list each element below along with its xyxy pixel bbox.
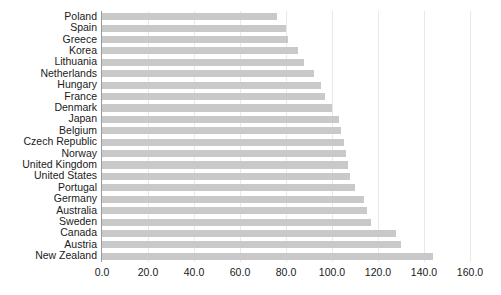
x-axis-tick-label: 0.0	[95, 266, 110, 278]
bar-row	[102, 36, 470, 43]
bar	[102, 196, 364, 203]
bar	[102, 13, 277, 20]
bar	[102, 127, 341, 134]
y-axis-label: Norway	[0, 148, 97, 159]
bar-row	[102, 184, 470, 191]
bar	[102, 36, 288, 43]
bar-row	[102, 127, 470, 134]
bar	[102, 25, 286, 32]
bar-row	[102, 230, 470, 237]
y-axis-label: Austria	[0, 239, 97, 250]
y-axis-label: Japan	[0, 113, 97, 124]
bar-row	[102, 150, 470, 157]
y-axis-label: New Zealand	[0, 250, 97, 261]
x-axis-tick-label: 20.0	[138, 266, 158, 278]
bar-row	[102, 47, 470, 54]
x-axis-tick-label: 40.0	[184, 266, 204, 278]
x-axis-tick-label: 160.0	[457, 266, 483, 278]
bar	[102, 241, 401, 248]
bar-row	[102, 161, 470, 168]
bar-rows	[102, 11, 470, 262]
bar	[102, 139, 344, 146]
bar	[102, 104, 332, 111]
y-axis-label: Korea	[0, 45, 97, 56]
y-axis-label: Canada	[0, 227, 97, 238]
y-axis-label: Greece	[0, 34, 97, 45]
bar-row	[102, 219, 470, 226]
bar-chart: PolandSpainGreeceKoreaLithuaniaNetherlan…	[0, 0, 501, 295]
y-axis-label: France	[0, 91, 97, 102]
gridline	[470, 11, 471, 262]
bar-row	[102, 207, 470, 214]
bar-row	[102, 82, 470, 89]
bar	[102, 82, 321, 89]
bar	[102, 59, 304, 66]
bar-row	[102, 104, 470, 111]
x-axis-tick-label: 100.0	[319, 266, 345, 278]
bar	[102, 230, 396, 237]
y-axis-label: Netherlands	[0, 68, 97, 79]
bar-row	[102, 196, 470, 203]
bar-row	[102, 241, 470, 248]
y-axis-label: Belgium	[0, 125, 97, 136]
x-axis-tick-label: 80.0	[276, 266, 296, 278]
y-axis-label: Sweden	[0, 216, 97, 227]
bar	[102, 70, 314, 77]
y-axis-label: Portugal	[0, 182, 97, 193]
bar	[102, 253, 433, 260]
y-axis-label: Spain	[0, 22, 97, 33]
bar	[102, 93, 325, 100]
bar	[102, 207, 367, 214]
bar-row	[102, 93, 470, 100]
y-axis-label: Denmark	[0, 102, 97, 113]
bar	[102, 47, 298, 54]
bar-row	[102, 13, 470, 20]
y-axis-label: Poland	[0, 11, 97, 22]
bar	[102, 219, 371, 226]
y-axis-label: Czech Republic	[0, 136, 97, 147]
bar	[102, 150, 346, 157]
y-axis-label: United States	[0, 170, 97, 181]
x-axis-tick-label: 120.0	[365, 266, 391, 278]
y-axis-label: Australia	[0, 205, 97, 216]
bar-row	[102, 25, 470, 32]
bar	[102, 184, 355, 191]
bar	[102, 173, 350, 180]
bar-row	[102, 139, 470, 146]
x-axis-tick-label: 60.0	[230, 266, 250, 278]
y-axis-label: Germany	[0, 193, 97, 204]
y-axis-label: Lithuania	[0, 56, 97, 67]
x-axis-tick-labels: 0.020.040.060.080.0100.0120.0140.0160.0	[0, 266, 501, 282]
bar	[102, 161, 348, 168]
plot-area	[102, 11, 470, 262]
bar-row	[102, 173, 470, 180]
x-axis-tick-label: 140.0	[411, 266, 437, 278]
bar-row	[102, 116, 470, 123]
y-axis-category-labels: PolandSpainGreeceKoreaLithuaniaNetherlan…	[0, 11, 97, 262]
y-axis-label: Hungary	[0, 79, 97, 90]
bar	[102, 116, 339, 123]
bar-row	[102, 70, 470, 77]
y-axis-label: United Kingdom	[0, 159, 97, 170]
bar-row	[102, 253, 470, 260]
bar-row	[102, 59, 470, 66]
